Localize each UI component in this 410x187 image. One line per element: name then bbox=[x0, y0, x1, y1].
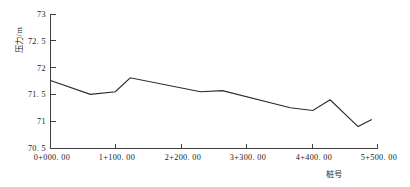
y-tick-label-70-5: 70. 5 bbox=[28, 144, 46, 153]
pressure-data-line bbox=[51, 78, 372, 127]
x-tick-label-0: 0+000. 00 bbox=[34, 153, 70, 162]
x-tick-label-5: 5+500. 00 bbox=[361, 153, 397, 162]
x-tick-labels: 0+000. 00 1+100. 00 2+200. 00 3+300. 00 … bbox=[34, 153, 397, 162]
y-tick-label-72: 72 bbox=[37, 64, 46, 73]
y-tick-label-71: 71 bbox=[37, 117, 46, 126]
y-tick-labels: 73 72. 5 72 71. 5 71 70. 5 bbox=[28, 10, 46, 153]
y-tick-label-72-5: 72. 5 bbox=[28, 37, 46, 46]
x-tick-label-1: 1+100. 00 bbox=[99, 153, 135, 162]
x-axis-title: 桩号 bbox=[326, 169, 343, 179]
x-axis bbox=[51, 144, 379, 149]
x-tick-label-2: 2+200. 00 bbox=[165, 153, 201, 162]
x-tick-label-4: 4+400. 00 bbox=[296, 153, 332, 162]
y-tick-label-73: 73 bbox=[37, 10, 46, 19]
chart-canvas: 73 72. 5 72 71. 5 71 70. 5 0+000. 00 1+1… bbox=[0, 0, 410, 187]
y-tick-label-71-5: 71. 5 bbox=[28, 90, 46, 99]
x-tick-label-3: 3+300. 00 bbox=[230, 153, 266, 162]
pressure-chart-figure: 73 72. 5 72 71. 5 71 70. 5 0+000. 00 1+1… bbox=[0, 0, 410, 187]
y-axis-title: 压力/m bbox=[14, 27, 24, 53]
